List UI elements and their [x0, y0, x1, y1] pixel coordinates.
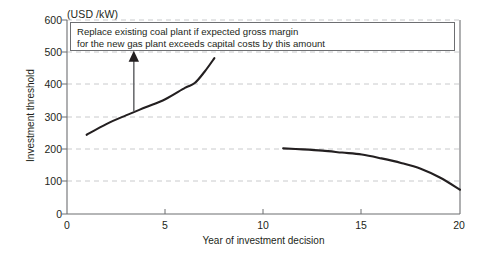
- series-line-falling: [283, 148, 460, 189]
- callout-text-line-2: for the new gas plant exceeds capital co…: [77, 38, 448, 50]
- y-axis-ticks: [62, 20, 67, 214]
- callout-text-box: Replace existing coal plant if expected …: [70, 22, 455, 51]
- chart-figure: (USD /kW) Investment threshold Year of i…: [0, 0, 487, 261]
- x-axis-ticks: [165, 209, 361, 214]
- series-line-rising: [87, 58, 215, 135]
- callout-arrow: [129, 51, 139, 111]
- callout-text-line-1: Replace existing coal plant if expected …: [77, 26, 448, 38]
